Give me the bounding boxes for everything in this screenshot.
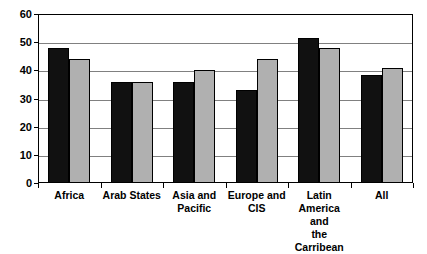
bar [111,82,132,183]
x-tick-label-line: Pacific [164,202,225,215]
bar [361,75,382,183]
y-tick-label: 60 [20,9,32,20]
bar [236,90,257,183]
x-tick-label: Asia andPacific [163,189,226,241]
bar-group [101,14,164,183]
bars-layer [38,14,413,183]
bar-group [226,14,289,183]
y-axis: 0102030405060 [0,14,32,183]
x-tick-label-line: Africa [39,189,100,202]
x-tick-label: All [351,189,414,241]
x-tick-label: Europe andCIS [226,189,289,241]
bar [132,82,153,183]
x-tick-label: Africa [38,189,101,241]
y-tick-mark [34,14,38,15]
y-tick-mark [34,183,38,184]
y-tick-mark [34,127,38,128]
x-axis-ticks [38,183,413,188]
y-tick-label: 30 [20,93,32,104]
bar [298,38,319,183]
bar [257,59,278,183]
y-tick-label: 40 [20,65,32,76]
bar-group [38,14,101,183]
y-tick-label: 20 [20,121,32,132]
y-tick-mark [34,42,38,43]
x-tick-label-line: CIS [227,202,288,215]
x-tick-mark [101,183,102,188]
bar [194,70,215,183]
bar [319,48,340,183]
bar-group [288,14,351,183]
bar-group [163,14,226,183]
x-tick-mark [351,183,352,188]
bar [48,48,69,183]
bar [69,59,90,183]
x-tick-mark [38,183,39,188]
x-tick-label: Arab States [101,189,164,241]
x-tick-label-line: the Carribean [289,228,350,254]
y-tick-label: 10 [20,149,32,160]
x-tick-label-line: Asia and [164,189,225,202]
y-tick-label: 50 [20,37,32,48]
x-axis-labels: AfricaArab StatesAsia andPacificEurope a… [38,189,413,241]
bar [382,68,403,183]
y-tick-mark [34,70,38,71]
x-tick-label: LatinAmerica andthe Carribean [288,189,351,241]
x-tick-label-line: Latin [289,189,350,202]
x-tick-label-line: America and [289,202,350,228]
y-tick-mark [34,155,38,156]
x-tick-mark [226,183,227,188]
y-tick-label: 0 [26,178,32,189]
bar [173,82,194,183]
x-tick-label-line: Arab States [102,189,163,202]
x-tick-label-line: All [352,189,413,202]
x-tick-label-line: Europe and [227,189,288,202]
y-tick-mark [34,99,38,100]
x-tick-mark [288,183,289,188]
x-tick-mark [163,183,164,188]
bar-group [351,14,414,183]
x-tick-mark [413,183,414,188]
